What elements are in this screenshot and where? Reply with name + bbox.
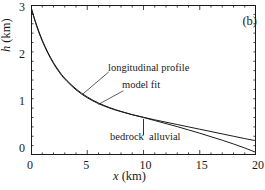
- y-axis-label-var: h: [0, 46, 13, 52]
- y-tick-label: 2: [19, 48, 25, 60]
- annotation-bedrock: bedrock: [110, 132, 144, 143]
- y-tick-label: 0: [19, 142, 25, 154]
- annotation-longitudinal-profile: longitudinal profile: [108, 63, 189, 74]
- x-tick-label: 10: [140, 159, 152, 171]
- x-tick-label: 5: [83, 159, 89, 171]
- y-tick-label: 3: [19, 1, 25, 13]
- panel-label: (b): [242, 14, 257, 29]
- annotation-model-fit: model fit: [122, 80, 160, 91]
- x-tick-label: 0: [27, 159, 33, 171]
- annotation-alluvial: alluvial: [149, 132, 181, 143]
- y-tick-label: 1: [19, 95, 25, 107]
- x-tick-label: 15: [196, 159, 208, 171]
- x-tick-label: 20: [252, 159, 264, 171]
- x-axis-label-var: x: [113, 169, 119, 183]
- y-axis-label-unit: (km): [0, 18, 13, 42]
- figure-panel: h (km) x (km) (b) longitudinal profile m…: [0, 0, 265, 190]
- y-axis-label: h (km): [0, 18, 14, 52]
